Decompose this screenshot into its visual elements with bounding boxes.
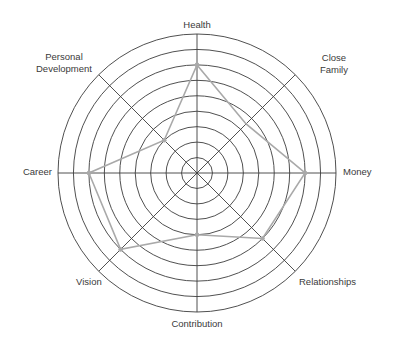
data-point [118, 247, 123, 252]
grid-spokes [58, 34, 336, 312]
axis-label-personal-development-line2: Development [36, 63, 92, 75]
axis-label-vision: Vision [76, 276, 102, 288]
data-point [87, 171, 92, 176]
data-point [195, 233, 200, 238]
data-point [162, 138, 167, 143]
axis-label-money: Money [343, 166, 372, 178]
axis-label-close-family: Close Family [320, 52, 348, 76]
axis-label-personal-development-line1: Personal [36, 51, 92, 63]
data-point [195, 63, 200, 68]
axis-label-close-family-line1: Close [320, 52, 348, 64]
data-point [260, 236, 265, 241]
data-point [303, 171, 308, 176]
axis-label-career: Career [23, 166, 52, 178]
grid-spoke [99, 173, 197, 271]
grid-spoke [197, 173, 295, 271]
axis-label-close-family-line2: Family [320, 64, 348, 76]
grid-spoke [99, 75, 197, 173]
axis-label-health: Health [183, 19, 210, 31]
axis-label-personal-development: Personal Development [36, 51, 92, 75]
axis-label-contribution: Contribution [171, 318, 222, 330]
axis-label-relationships: Relationships [299, 276, 356, 288]
